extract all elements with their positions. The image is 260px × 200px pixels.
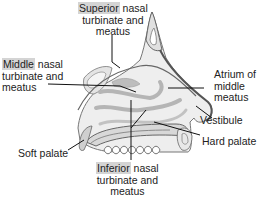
label-vestibule: Vestibule: [200, 115, 243, 127]
highlight-middle: Middle: [2, 58, 35, 70]
label-superior-nasal-turbinate: Superior nasal turbinate and meatus: [78, 3, 148, 38]
highlight-superior: Superior: [78, 2, 120, 14]
label-soft-palate: Soft palate: [18, 148, 68, 160]
highlight-inferior: Inferior: [96, 162, 131, 174]
nasal-cavity-diagram: Superior nasal turbinate and meatus Midd…: [0, 0, 260, 200]
label-hard-palate: Hard palate: [202, 136, 256, 148]
label-atrium-of-middle-meatus: Atrium of middle meatus: [214, 69, 256, 104]
label-inferior-nasal-turbinate: Inferior nasal turbinate and meatus: [96, 163, 159, 198]
label-middle-nasal-turbinate: Middle nasal turbinate and meatus: [2, 59, 63, 94]
